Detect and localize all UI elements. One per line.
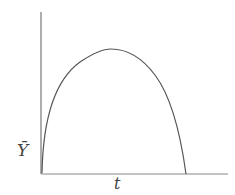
- y-axis-label: Ȳ: [17, 140, 28, 160]
- plot-area: [0, 0, 235, 195]
- data-curve: [42, 49, 186, 174]
- arch-curve-diagram: Ȳ t: [0, 0, 235, 195]
- x-axis-label: t: [114, 174, 120, 193]
